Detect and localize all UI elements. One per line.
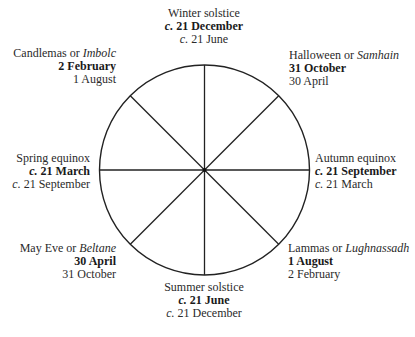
southern-date: 2 February: [288, 268, 415, 281]
label-winter-solstice: Winter solstice c. 21 December c. 21 Jun…: [154, 7, 254, 46]
southern-date: c. 21 December: [154, 307, 254, 320]
southern-date: c. 21 June: [154, 33, 254, 46]
southern-date: 30 April: [289, 75, 415, 88]
label-candlemas: Candlemas or Imbolc 2 February 1 August: [10, 47, 116, 86]
southern-date: 31 October: [10, 268, 116, 281]
center-dot: [203, 168, 207, 172]
southern-date: c. 21 September: [10, 178, 90, 191]
label-summer-solstice: Summer solstice c. 21 June c. 21 Decembe…: [154, 281, 254, 320]
label-lammas: Lammas or Lughnassadh 1 August 2 Februar…: [288, 242, 415, 281]
southern-date: c. 21 March: [315, 178, 415, 191]
label-spring-equinox: Spring equinox c. 21 March c. 21 Septemb…: [10, 152, 90, 191]
southern-date: 1 August: [10, 73, 116, 86]
label-autumn-equinox: Autumn equinox c. 21 September c. 21 Mar…: [315, 152, 415, 191]
label-halloween: Halloween or Samhain 31 October 30 April: [289, 49, 415, 88]
label-may-eve: May Eve or Beltane 30 April 31 October: [10, 242, 116, 281]
